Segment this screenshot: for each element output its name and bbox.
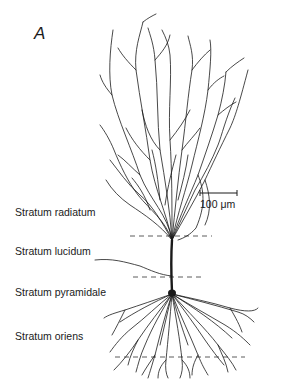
scale-bar bbox=[200, 190, 237, 196]
soma-and-trunk bbox=[95, 240, 176, 297]
basal-dendrites bbox=[104, 294, 258, 378]
layer-boundaries bbox=[115, 236, 245, 357]
neuron-drawing bbox=[0, 0, 282, 385]
apical-dendrites bbox=[100, 14, 248, 240]
